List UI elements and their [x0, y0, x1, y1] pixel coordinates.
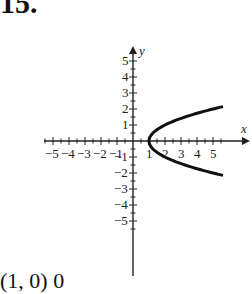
x-tick-label: −3 [77, 146, 91, 161]
y-tick-label: 4 [122, 69, 129, 84]
x-tick-label: −4 [61, 146, 75, 161]
y-tick-label: −5 [114, 213, 128, 228]
x-axis-arrow-icon [242, 137, 250, 145]
y-tick-label: 2 [122, 101, 129, 116]
x-tick-label: 3 [178, 146, 185, 161]
x-axis-label: x [240, 121, 247, 136]
x-tick-label: −2 [93, 146, 107, 161]
y-tick-label: −2 [114, 165, 128, 180]
footer-text: (1, 0) 0 [0, 268, 64, 294]
x-tick-label: 4 [194, 146, 201, 161]
y-tick-label: 5 [122, 53, 129, 68]
x-tick-label: −5 [45, 146, 59, 161]
y-axis-label: y [137, 43, 145, 58]
x-tick-label: 5 [210, 146, 217, 161]
y-tick-label: 1 [122, 117, 129, 132]
y-tick-label: 3 [122, 85, 129, 100]
y-tick-label: −4 [114, 197, 128, 212]
y-tick-label: −1 [114, 149, 128, 164]
y-tick-label: −3 [114, 181, 128, 196]
